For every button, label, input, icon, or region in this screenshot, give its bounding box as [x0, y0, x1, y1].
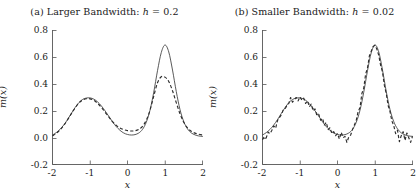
ytick-label: 0.8: [34, 25, 48, 35]
panel-b-axes: [263, 30, 414, 165]
panel-a-estimate-curve: [53, 76, 203, 136]
ytick-label: 0.6: [34, 52, 48, 62]
xtick-label: -1: [85, 168, 94, 178]
panel-b-title-prefix: (b) Smaller Bandwidth:: [235, 6, 353, 17]
panel-a-plot-area: [52, 30, 203, 165]
panel-a-canvas: [52, 30, 203, 165]
panel-a-title-prefix: (a) Larger Bandwidth:: [30, 6, 142, 17]
ytick-label: -0.2: [31, 160, 48, 170]
panel-b-true-curve: [263, 45, 413, 136]
ytick-label: 0.2: [244, 106, 258, 116]
panel-b: (b) Smaller Bandwidth: h = 0.02 0.8 0.6 …: [210, 0, 419, 193]
panel-b-estimate-curve: [263, 45, 413, 142]
panel-a-x-ticks: [53, 161, 203, 165]
panel-b-y-ticks: [263, 31, 267, 165]
xtick-label: -2: [48, 168, 57, 178]
panel-b-xlabel: x: [262, 179, 413, 190]
xtick-label: 0: [125, 168, 131, 178]
panel-b-title-eq: = 0.02: [358, 6, 394, 17]
ytick-label: 0.0: [34, 133, 48, 143]
panel-b-canvas: [262, 30, 413, 165]
ytick-label: 0.4: [34, 79, 48, 89]
xtick-label: -2: [258, 168, 267, 178]
ytick-label: 0.2: [34, 106, 48, 116]
figure-root: (a) Larger Bandwidth: h = 0.2 0.8 0.6 0.…: [0, 0, 419, 193]
panel-a-title-eq: = 0.2: [149, 6, 179, 17]
panel-b-title: (b) Smaller Bandwidth: h = 0.02: [210, 6, 419, 17]
ytick-label: -0.2: [241, 160, 258, 170]
panel-a-axes: [53, 30, 204, 165]
panel-b-ytick-labels: 0.8 0.6 0.4 0.2 0.0 -0.2: [228, 30, 258, 165]
ytick-label: 0.6: [244, 52, 258, 62]
ytick-label: 0.0: [244, 133, 258, 143]
xtick-label: 2: [410, 168, 416, 178]
panel-a-y-ticks: [53, 31, 57, 165]
xtick-label: 1: [372, 168, 378, 178]
panel-a-xlabel: x: [52, 179, 203, 190]
ytick-label: 0.8: [244, 25, 258, 35]
xtick-label: 1: [162, 168, 168, 178]
xtick-label: 0: [335, 168, 341, 178]
panel-a-true-curve: [53, 45, 203, 136]
ytick-label: 0.4: [244, 79, 258, 89]
panel-a-ytick-labels: 0.8 0.6 0.4 0.2 0.0 -0.2: [18, 30, 48, 165]
xtick-label: -1: [295, 168, 304, 178]
panel-b-plot-area: [262, 30, 413, 165]
panel-a: (a) Larger Bandwidth: h = 0.2 0.8 0.6 0.…: [0, 0, 209, 193]
panel-a-ylabel: m(x): [0, 86, 8, 108]
panel-a-title: (a) Larger Bandwidth: h = 0.2: [0, 6, 209, 17]
panel-b-ylabel: m(x): [207, 86, 218, 108]
panel-b-x-ticks: [263, 161, 413, 165]
xtick-label: 2: [200, 168, 206, 178]
